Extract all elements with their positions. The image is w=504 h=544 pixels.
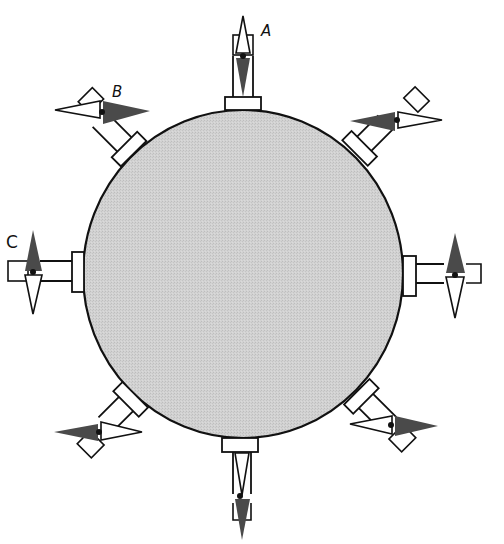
compass-a [225,16,261,110]
needle-dark-end [25,230,42,271]
label-c: C [6,232,18,252]
needle-dark-end [446,233,465,273]
needle-light-end [398,112,442,128]
mount-base [225,97,261,110]
needle-pivot [394,117,400,123]
mount-base [72,252,84,292]
needle-light-end [235,453,249,495]
needle-pivot [30,269,36,275]
compass-diagram: A B C [0,0,504,544]
needle-dark-end [395,416,438,436]
stem [416,264,444,283]
label-b: B [112,83,122,101]
label-a: A [260,22,271,40]
needle-pivot [96,429,102,435]
needle-light-end [350,416,392,434]
needle-pivot [237,493,243,499]
needle-light-end [25,275,42,314]
needle-pivot [388,422,394,428]
compass-bottom-right [344,379,438,452]
needle-light-end [446,277,464,318]
needle-light-end [101,422,142,440]
stem [40,261,72,281]
needle-dark-end [350,112,395,131]
needle-pivot [240,53,246,59]
mount-base [403,256,416,296]
central-disc [83,110,403,438]
needle-housing [466,264,481,283]
compass-bottom-left [54,382,148,458]
needle-pivot [452,272,458,278]
compass-top-right [342,87,442,166]
needle-dark-end [236,58,250,97]
needle-light-end [55,101,100,118]
compass-c [8,230,84,314]
needle-dark-end [103,101,150,124]
mount-base [222,438,258,452]
compass-right [403,233,481,318]
compass-bottom [222,438,258,540]
needle-dark-end [54,424,98,441]
needle-pivot [99,109,105,115]
